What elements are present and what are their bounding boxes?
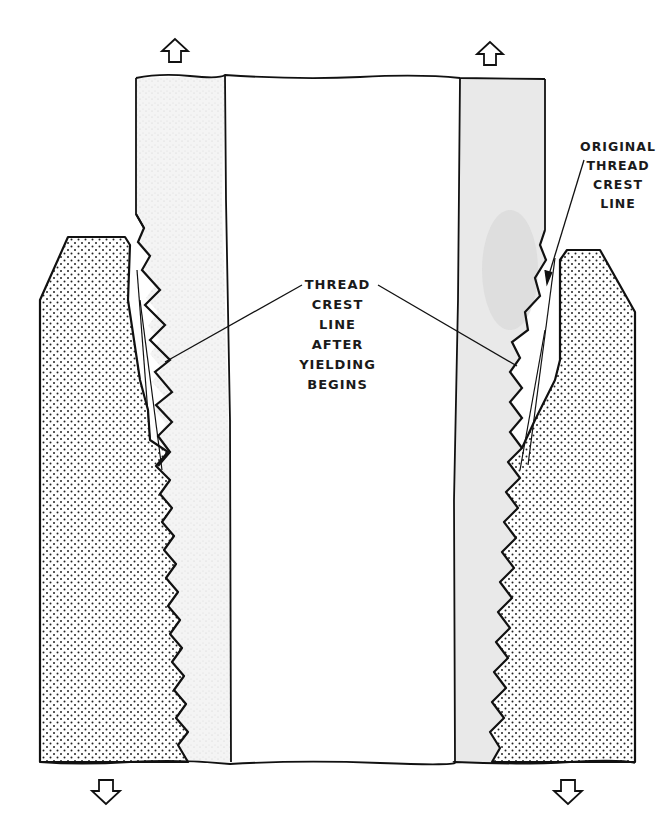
- label-line: YIELDING: [290, 355, 385, 375]
- label-line: ORIGINAL: [578, 137, 658, 156]
- label-line: THREAD: [578, 156, 658, 175]
- thread-yield-diagram: [0, 0, 669, 839]
- leader-original-crest-arrowhead: [545, 270, 552, 284]
- label-line: CREST: [578, 175, 658, 194]
- label-line: LINE: [290, 315, 385, 335]
- down-arrow-right: [554, 780, 582, 804]
- label-thread-crest-after-yielding: THREAD CREST LINE AFTER YIELDING BEGINS: [290, 275, 385, 395]
- label-line: LINE: [578, 194, 658, 213]
- up-arrow-right: [477, 42, 503, 65]
- label-line: CREST: [290, 295, 385, 315]
- label-line: BEGINS: [290, 375, 385, 395]
- label-original-thread-crest-line: ORIGINAL THREAD CREST LINE: [578, 137, 658, 213]
- label-line: AFTER: [290, 335, 385, 355]
- label-line: THREAD: [290, 275, 385, 295]
- up-arrow-left: [162, 39, 188, 62]
- down-arrow-left: [92, 780, 120, 804]
